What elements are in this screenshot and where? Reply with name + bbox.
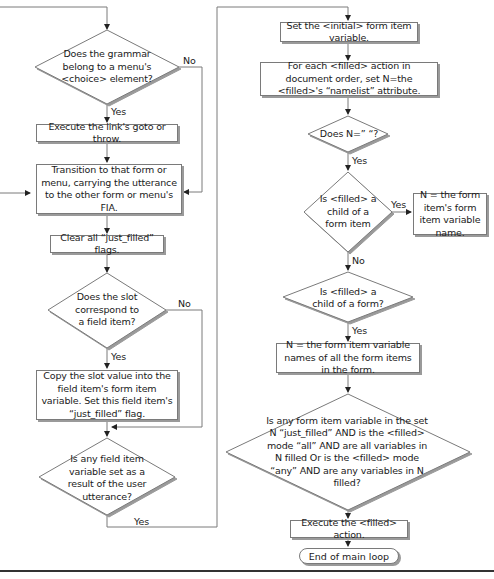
transition-box: Transition to that form or menu, carryin…	[36, 164, 182, 214]
d2-yes-label: Yes	[111, 351, 126, 362]
for-each-filled-box: For each <filled> action in document ord…	[260, 62, 438, 96]
d6-yes-label: Yes	[352, 325, 367, 336]
decision-d1-text: Does the grammar belong to a menu's <cho…	[48, 44, 166, 90]
n-form-item-box: N = the form item's form item variable n…	[413, 193, 487, 235]
d1-yes-label: Yes	[111, 106, 126, 117]
end-terminal: End of main loop	[299, 548, 399, 564]
d1-no-label: No	[183, 55, 196, 66]
execute-link-box: Execute the link's goto or throw.	[36, 124, 178, 142]
n-form-items-box: N = the form item variable names of all …	[276, 343, 420, 373]
d2-no-label: No	[178, 298, 191, 309]
decision-d5-text: Is <filled> a child of a form item	[318, 192, 378, 232]
decision-d6-text: Is <filled> a child of a form?	[308, 284, 388, 312]
d5-yes-label: Yes	[391, 199, 406, 210]
d3-yes-label: Yes	[134, 516, 149, 527]
d5-no-label: No	[352, 255, 365, 266]
bottom-rule	[0, 570, 494, 572]
decision-d3-text: Is any field item variable set as a resu…	[60, 452, 154, 504]
copy-slot-box: Copy the slot value into the field item'…	[36, 370, 178, 420]
decision-d4-text: Does N=” “?	[313, 126, 385, 142]
decision-d7-text: Is any form item variable in the set N “…	[264, 412, 430, 492]
set-initial-box: Set the <initial> form item variable.	[280, 22, 418, 42]
d4-yes-label: Yes	[352, 155, 367, 166]
execute-filled-box: Execute the <filled> action.	[290, 520, 408, 538]
clear-flags-box: Clear all “just_filled” flags.	[50, 235, 164, 253]
decision-d2-text: Does the slot correspond to a field item…	[72, 290, 142, 330]
